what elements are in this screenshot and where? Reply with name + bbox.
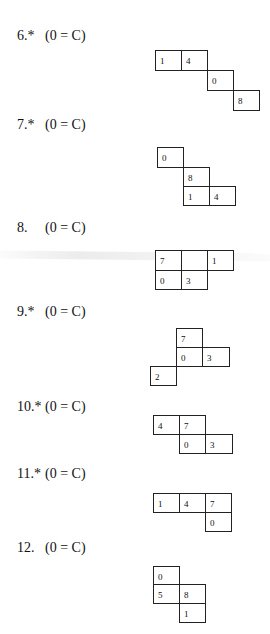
net-cell: 1 xyxy=(183,186,210,206)
problem-label: 7.* (0 = C) xyxy=(17,117,35,133)
cell-value: 1 xyxy=(212,257,217,266)
cell-value: 0 xyxy=(210,519,215,528)
problem-condition: (0 = C) xyxy=(45,399,86,415)
net-cell: 3 xyxy=(205,434,233,454)
cell-value: 0 xyxy=(160,277,165,286)
cell-value: 1 xyxy=(188,193,193,202)
net-cell: 2 xyxy=(150,366,177,386)
problem-label: 9.* (0 = C) xyxy=(17,304,35,320)
problem-label: 10.* (0 = C) xyxy=(17,399,42,415)
cell-value: 1 xyxy=(160,57,165,66)
net-cell: 0 xyxy=(176,347,203,367)
cell-value: 0 xyxy=(212,77,217,86)
problem-label: 6.* (0 = C) xyxy=(17,28,35,44)
net-cell: 0 xyxy=(179,434,206,454)
cell-value: 4 xyxy=(158,422,163,431)
problem-condition: (0 = C) xyxy=(45,540,86,556)
cell-value: 5 xyxy=(158,591,163,600)
cell-value: 4 xyxy=(184,500,189,509)
cell-value: 1 xyxy=(184,610,189,619)
net-cell: 7 xyxy=(176,328,203,348)
problem-number: 6.* xyxy=(17,28,35,44)
problem-number: 7.* xyxy=(17,117,35,133)
problem-condition: (0 = C) xyxy=(45,304,86,320)
net-cell: 4 xyxy=(209,186,236,206)
cell-value: 7 xyxy=(184,422,189,431)
problem-number: 12. xyxy=(17,540,35,556)
cell-value: 2 xyxy=(155,373,160,382)
net-cell: 4 xyxy=(153,415,180,435)
net-cell: 8 xyxy=(179,584,206,604)
problem-label: 12. (0 = C) xyxy=(17,540,35,556)
cell-value: 7 xyxy=(181,335,186,344)
net-cell: 8 xyxy=(233,90,260,111)
problem-number: 10.* xyxy=(17,399,42,415)
problem-label: 8. (0 = C) xyxy=(17,220,28,236)
problem-number: 9.* xyxy=(17,304,35,320)
net-cell: 7 xyxy=(179,415,206,435)
net-cell xyxy=(181,250,208,271)
net-cell: 1 xyxy=(207,250,234,271)
net-cell: 4 xyxy=(181,50,208,71)
problem-number: 11.* xyxy=(17,466,41,482)
cell-value: 3 xyxy=(210,441,215,450)
cell-value: 3 xyxy=(186,277,191,286)
net-cell: 1 xyxy=(153,493,180,513)
cell-value: 7 xyxy=(160,257,165,266)
net-cell: 0 xyxy=(207,70,234,91)
net-cell: 0 xyxy=(155,270,182,290)
cell-value: 0 xyxy=(181,354,186,363)
problem-condition: (0 = C) xyxy=(45,28,86,44)
net-cell: 7 xyxy=(155,250,182,271)
problem-number: 8. xyxy=(17,220,28,236)
net-cell: 7 xyxy=(205,493,232,513)
net-cell: 3 xyxy=(202,347,230,367)
problem-condition: (0 = C) xyxy=(45,466,86,482)
cell-value: 0 xyxy=(184,441,189,450)
net-cell: 1 xyxy=(179,603,206,623)
net-cell: 0 xyxy=(157,147,184,168)
net-cell: 1 xyxy=(155,50,182,71)
net-cell: 0 xyxy=(153,566,180,585)
cell-value: 8 xyxy=(238,97,243,106)
net-cell: 0 xyxy=(205,512,232,532)
cell-value: 1 xyxy=(158,500,163,509)
cell-value: 7 xyxy=(210,500,215,509)
cell-value: 3 xyxy=(207,354,212,363)
cell-value: 0 xyxy=(158,573,163,582)
problem-label: 11.* (0 = C) xyxy=(17,466,41,482)
cell-value: 8 xyxy=(184,591,189,600)
problem-condition: (0 = C) xyxy=(45,117,86,133)
net-cell: 3 xyxy=(181,270,208,290)
cell-value: 4 xyxy=(186,57,191,66)
cell-value: 8 xyxy=(188,174,193,183)
problem-condition: (0 = C) xyxy=(45,220,86,236)
net-cell: 5 xyxy=(153,584,180,604)
net-cell: 4 xyxy=(179,493,206,513)
cell-value: 4 xyxy=(214,193,219,202)
cell-value: 0 xyxy=(162,154,167,163)
net-cell: 8 xyxy=(183,167,210,187)
